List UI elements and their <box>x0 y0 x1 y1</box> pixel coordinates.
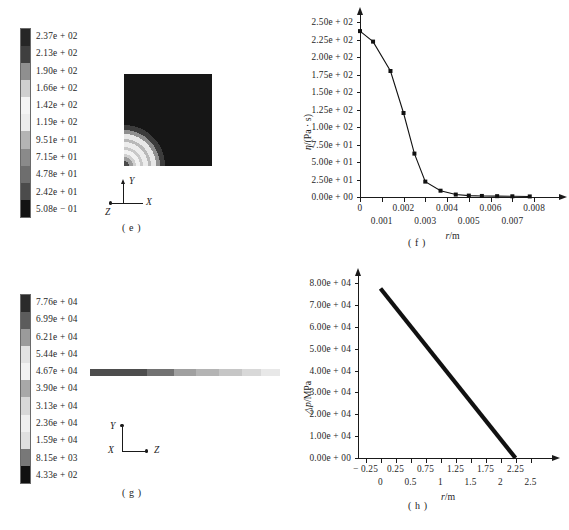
colorbar-tick-label: 1.66e + 02 <box>36 80 78 97</box>
colorbar-tick-label: 3.90e + 04 <box>36 380 78 397</box>
triad-horizontal-axis <box>123 203 143 204</box>
colorbar-segment <box>21 29 30 46</box>
panel-e-contour-field <box>124 74 212 166</box>
data-point-marker <box>480 194 484 198</box>
triad-label-right: X <box>146 197 152 207</box>
data-point-marker <box>412 152 416 156</box>
colorbar-tick-label: 2.36e + 04 <box>36 415 78 432</box>
triad-up-dot <box>120 424 123 427</box>
panel-e-colorbar-labels: 2.37e + 022.13e + 021.90e + 021.66e + 02… <box>36 28 78 218</box>
panel-f-caption: ( f ) <box>408 237 426 248</box>
colorbar-segment <box>21 183 30 200</box>
data-point-marker <box>371 40 375 44</box>
colorbar-tick-label: 6.21e + 04 <box>36 329 78 346</box>
colorbar-segment <box>21 97 30 114</box>
data-point-marker <box>388 69 392 73</box>
colorbar-tick-label: 1.90e + 02 <box>36 63 78 80</box>
panel-g-contour-plot <box>90 369 280 376</box>
data-point-marker <box>439 189 443 193</box>
colorbar-segment <box>21 432 30 449</box>
colorbar-segment <box>21 166 30 183</box>
data-series-line <box>381 288 516 458</box>
triad-up-arrow <box>121 179 125 184</box>
colorbar-tick-label: 2.13e + 02 <box>36 45 78 62</box>
colorbar-segment <box>21 63 30 80</box>
panel-e-colorbar: 2.37e + 022.13e + 021.90e + 021.66e + 02… <box>20 28 78 218</box>
colorbar-segment <box>21 346 30 363</box>
panel-g-contour-field <box>90 369 280 376</box>
colorbar-segment <box>21 46 30 63</box>
series-layer <box>290 0 569 265</box>
colorbar-segment <box>21 295 30 312</box>
triad-diag-dot <box>109 201 112 204</box>
triad-vertical-axis <box>122 427 123 452</box>
panel-g-axis-triad: Y Z X <box>108 420 188 465</box>
triad-label-up: Y <box>129 176 134 186</box>
panel-f: 2.50e + 022.25e + 022.00e + 021.75e + 02… <box>290 0 569 265</box>
contour-band <box>147 369 174 376</box>
colorbar-segment <box>21 312 30 329</box>
colorbar-segment <box>21 380 30 397</box>
colorbar-tick-label: 1.19e + 02 <box>36 114 78 131</box>
data-point-marker <box>358 29 362 33</box>
panel-g-caption: ( g ) <box>122 487 142 498</box>
data-point-marker <box>454 193 458 197</box>
contour-band <box>174 369 197 376</box>
data-point-marker <box>467 194 471 198</box>
colorbar-tick-label: 2.42e + 01 <box>36 184 78 201</box>
colorbar-tick-label: 8.15e + 03 <box>36 450 78 467</box>
colorbar-tick-label: 5.08e − 01 <box>36 201 78 218</box>
contour-band <box>261 369 280 376</box>
colorbar-tick-label: 3.13e + 04 <box>36 398 78 415</box>
panel-e-axis-triad: Y X Z <box>105 176 175 218</box>
triad-label-diag: X <box>108 445 114 455</box>
colorbar-segment <box>21 114 30 131</box>
colorbar-tick-label: 5.44e + 04 <box>36 346 78 363</box>
triad-horizontal-axis <box>122 451 146 452</box>
triad-label-diag: Z <box>105 207 110 217</box>
triad-diagonal-axis <box>111 203 123 204</box>
colorbar-segment <box>21 363 30 380</box>
data-series-line <box>360 31 530 196</box>
panel-e-contour-plot <box>124 74 212 166</box>
triad-label-up: Y <box>110 421 115 431</box>
colorbar-tick-label: 9.51e + 01 <box>36 132 78 149</box>
colorbar-segment <box>21 449 30 466</box>
series-layer <box>290 265 569 530</box>
colorbar-tick-label: 2.37e + 02 <box>36 28 78 45</box>
colorbar-tick-label: 7.15e + 01 <box>36 149 78 166</box>
data-point-marker <box>528 194 532 198</box>
contour-band <box>219 369 242 376</box>
colorbar-tick-label: 4.67e + 04 <box>36 363 78 380</box>
panel-g-colorbar-labels: 7.76e + 046.99e + 046.21e + 045.44e + 04… <box>36 294 78 484</box>
colorbar-segment <box>21 149 30 166</box>
colorbar-segment <box>21 415 30 432</box>
panel-g-colorbar-gradient <box>20 294 31 484</box>
data-point-marker <box>402 111 406 115</box>
colorbar-tick-label: 1.59e + 04 <box>36 432 78 449</box>
panel-h: 8.00e + 047.00e + 046.00e + 045.00e + 04… <box>290 265 569 530</box>
panel-g: 7.76e + 046.99e + 046.21e + 045.44e + 04… <box>0 265 290 530</box>
data-point-marker <box>423 180 427 184</box>
contour-band <box>242 369 261 376</box>
colorbar-segment <box>21 329 30 346</box>
contour-band <box>90 369 147 376</box>
triad-label-right: Z <box>154 445 159 455</box>
colorbar-tick-label: 1.42e + 02 <box>36 97 78 114</box>
triad-vertical-axis <box>123 182 124 204</box>
panel-g-colorbar: 7.76e + 046.99e + 046.21e + 045.44e + 04… <box>20 294 78 484</box>
colorbar-tick-label: 6.99e + 04 <box>36 311 78 328</box>
triad-right-dot <box>145 449 148 452</box>
panel-e: 2.37e + 022.13e + 021.90e + 021.66e + 02… <box>0 0 290 265</box>
colorbar-segment <box>21 200 30 217</box>
colorbar-tick-label: 4.33e + 02 <box>36 467 78 484</box>
colorbar-tick-label: 7.76e + 04 <box>36 294 78 311</box>
colorbar-segment <box>21 80 30 97</box>
colorbar-tick-label: 4.78e + 01 <box>36 166 78 183</box>
panel-e-caption: ( e ) <box>122 222 141 233</box>
contour-band <box>196 369 219 376</box>
colorbar-segment <box>21 131 30 148</box>
colorbar-segment <box>21 466 30 483</box>
panel-h-caption: ( h ) <box>408 500 428 511</box>
data-point-marker <box>510 194 514 198</box>
